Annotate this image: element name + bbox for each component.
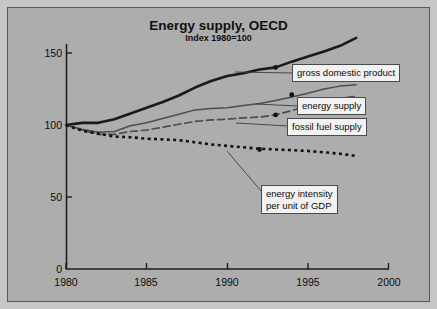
- callout-gross-domestic-product: gross domestic product: [292, 64, 400, 82]
- callout-fossil-fuel-supply: fossil fuel supply: [287, 118, 367, 136]
- data-point-marker-gross-domestic-product: [273, 65, 278, 70]
- callout-energy-supply: energy supply: [297, 97, 366, 115]
- leader-line-energy-intensity: [227, 151, 262, 192]
- callout-energy-intensity: energy intensity per unit of GDP: [261, 185, 338, 214]
- callout-fossil-fuel-label: fossil fuel supply: [292, 121, 362, 132]
- callout-energy-intensity-label-line1: energy intensity: [266, 188, 333, 200]
- chart-plot: [0, 0, 437, 309]
- callout-gdp-label: gross domestic product: [297, 67, 395, 78]
- leader-line-fossil-fuel: [236, 123, 288, 126]
- chart-figure: Energy supply, OECD Index 1980=100 150 1…: [0, 0, 437, 309]
- data-point-marker-fossil-fuel-supply: [273, 113, 278, 118]
- callout-energy-intensity-label-line2: per unit of GDP: [266, 200, 333, 212]
- data-point-marker-energy-supply: [289, 92, 294, 97]
- callout-energy-supply-label: energy supply: [302, 100, 361, 111]
- chart-marker-group: [257, 65, 294, 152]
- leader-line-energy-supply: [256, 104, 298, 106]
- data-point-marker-energy-intensity-per-unit-of-gdp: [257, 147, 262, 152]
